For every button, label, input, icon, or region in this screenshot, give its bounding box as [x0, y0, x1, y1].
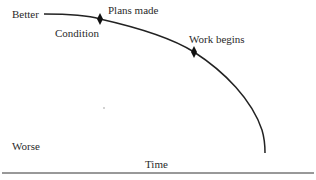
condition-label: Condition — [55, 27, 99, 39]
stray-dot — [103, 107, 105, 109]
work-begins-marker-icon — [191, 46, 197, 58]
plans-made-marker-icon — [97, 13, 103, 25]
worse-label: Worse — [12, 140, 40, 152]
diagram-canvas — [0, 0, 316, 180]
plans-made-label: Plans made — [108, 4, 158, 16]
better-label: Better — [12, 8, 39, 20]
time-label: Time — [145, 158, 168, 170]
work-begins-label: Work begins — [189, 33, 245, 45]
